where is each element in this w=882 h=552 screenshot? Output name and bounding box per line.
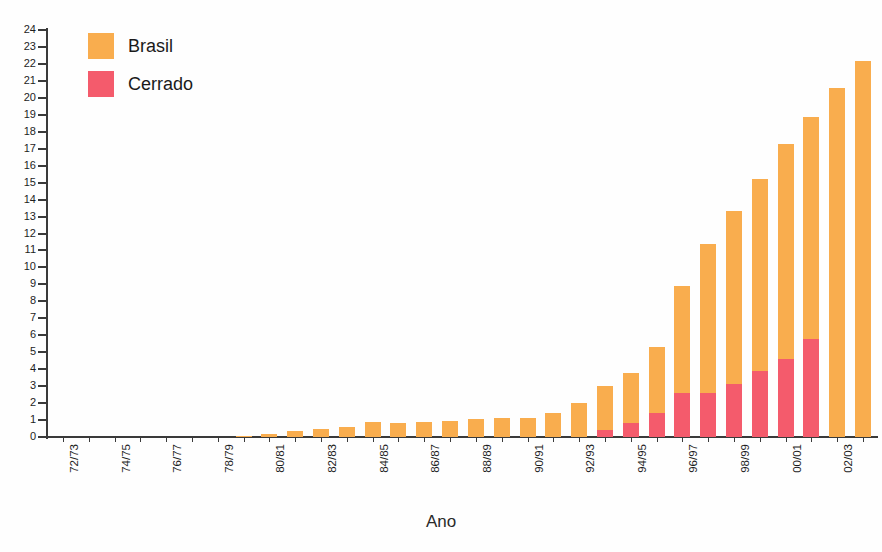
y-axis-tick (38, 216, 46, 218)
legend-item-cerrado[interactable]: Cerrado (88, 71, 193, 97)
bar-90-91[interactable] (520, 418, 536, 438)
bar-segment-brasil (700, 244, 716, 393)
x-axis-tick (605, 438, 606, 442)
x-axis-tick (347, 438, 348, 442)
y-axis-tick-label: 15 (0, 177, 36, 188)
x-axis-tick (424, 438, 425, 442)
bar-segment-cerrado (649, 413, 665, 437)
bar-92-93[interactable] (571, 403, 587, 437)
bar-82-83[interactable] (313, 429, 329, 437)
bar-segment-brasil (365, 422, 381, 437)
bar-segment-brasil (778, 144, 794, 359)
x-axis-tick (811, 438, 812, 442)
x-axis: 72/7374/7576/7778/7980/8182/8384/8586/87… (46, 438, 882, 510)
x-axis-tick (682, 438, 683, 442)
x-axis-tick (631, 438, 632, 442)
y-axis-tick-label: 1 (0, 414, 36, 425)
bar-79-80[interactable] (236, 436, 252, 437)
y-axis-tick-label: 23 (0, 41, 36, 52)
y-axis-tick (38, 334, 46, 336)
legend-swatch-brasil (88, 33, 114, 59)
y-axis-tick (38, 148, 46, 150)
bar-84-85[interactable] (365, 422, 381, 437)
y-axis-tick (38, 266, 46, 268)
x-axis-tick (321, 438, 322, 442)
y-axis-tick (38, 131, 46, 133)
bar-97-98[interactable] (700, 244, 716, 437)
bar-96-97[interactable] (674, 286, 690, 437)
y-axis-tick (38, 402, 46, 404)
x-axis-tick (192, 438, 193, 442)
bar-segment-brasil (829, 88, 845, 437)
bar-86-87[interactable] (416, 422, 432, 437)
x-axis-tick-label: 86/87 (429, 444, 441, 473)
x-axis-tick (63, 438, 64, 442)
bar-88-89[interactable] (468, 419, 484, 437)
y-axis-tick-label: 21 (0, 75, 36, 86)
bar-98-99[interactable] (726, 211, 742, 437)
bar-83-84[interactable] (339, 427, 355, 437)
bar-01-02[interactable] (803, 117, 819, 438)
x-axis-tick (140, 438, 141, 442)
bar-99-00[interactable] (752, 179, 768, 437)
x-axis-tick (528, 438, 529, 442)
bar-segment-brasil (313, 429, 329, 437)
bar-segment-brasil (494, 418, 510, 437)
x-axis-tick (295, 438, 296, 442)
y-axis-tick-label: 10 (0, 261, 36, 272)
bar-segment-brasil (597, 386, 613, 430)
bar-segment-brasil (390, 423, 406, 437)
y-axis-tick (38, 436, 46, 438)
y-axis-tick-label: 9 (0, 278, 36, 289)
y-axis-tick-label: 16 (0, 160, 36, 171)
bar-02-03[interactable] (829, 88, 845, 437)
x-axis-tick (760, 438, 761, 442)
x-axis-tick-label: 84/85 (378, 444, 390, 473)
chart-container: 0123456789101112131415161718192021222324… (0, 0, 882, 552)
x-axis-tick-label: 98/99 (739, 444, 751, 473)
chart-legend: BrasilCerrado (88, 33, 193, 109)
bar-segment-brasil (726, 211, 742, 384)
x-axis-tick (166, 438, 167, 442)
y-axis-tick-label: 24 (0, 24, 36, 35)
bar-segment-cerrado (803, 339, 819, 437)
x-axis-tick (553, 438, 554, 442)
bar-segment-brasil (623, 373, 639, 424)
bar-94-95[interactable] (623, 373, 639, 437)
bar-85-86[interactable] (390, 423, 406, 437)
bar-80-81[interactable] (261, 434, 277, 437)
bar-91-92[interactable] (545, 413, 561, 437)
bar-segment-brasil (855, 61, 871, 437)
bar-segment-brasil (287, 431, 303, 437)
y-axis-tick-label: 18 (0, 126, 36, 137)
bar-81-82[interactable] (287, 431, 303, 437)
y-axis-tick (38, 29, 46, 31)
x-axis-tick (579, 438, 580, 442)
bar-segment-brasil (649, 347, 665, 413)
bar-03-04[interactable] (855, 61, 871, 437)
y-axis-tick (38, 233, 46, 235)
bar-segment-brasil (416, 422, 432, 437)
x-axis-tick (244, 438, 245, 442)
x-axis-tick (786, 438, 787, 442)
x-axis-tick-label: 92/93 (584, 444, 596, 473)
y-axis-tick-label: 4 (0, 363, 36, 374)
bar-segment-brasil (261, 434, 277, 437)
legend-item-brasil[interactable]: Brasil (88, 33, 193, 59)
x-axis-tick (734, 438, 735, 442)
y-axis-tick (38, 419, 46, 421)
bar-87-88[interactable] (442, 421, 458, 437)
bar-00-01[interactable] (778, 144, 794, 437)
y-axis-tick-label: 7 (0, 312, 36, 323)
bar-segment-brasil (236, 436, 252, 437)
bar-89-90[interactable] (494, 418, 510, 437)
y-axis-tick-label: 17 (0, 143, 36, 154)
x-axis-tick (89, 438, 90, 442)
x-axis-tick-label: 72/73 (68, 444, 80, 473)
bar-95-96[interactable] (649, 347, 665, 437)
bar-93-94[interactable] (597, 386, 613, 437)
y-axis-tick-label: 5 (0, 346, 36, 357)
bar-segment-brasil (520, 418, 536, 438)
x-axis-tick (218, 438, 219, 442)
bar-segment-brasil (339, 427, 355, 437)
